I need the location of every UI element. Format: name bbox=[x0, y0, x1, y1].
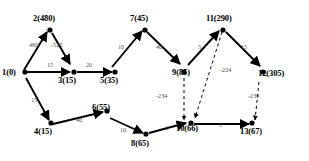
node-label-2: 2(480) bbox=[33, 14, 55, 23]
edge-12-13-dashed bbox=[255, 82, 259, 120]
node-label-1: 1(0) bbox=[2, 68, 16, 77]
node-label-6: 6(55) bbox=[92, 103, 110, 112]
node-label-5: 5(35) bbox=[100, 76, 118, 85]
edge-weight-4-6: 40 bbox=[76, 117, 82, 123]
edge-2-3 bbox=[52, 33, 70, 64]
edge-7-9 bbox=[147, 32, 180, 64]
edge-weight-9-10: -234 bbox=[156, 93, 167, 99]
node-label-3: 3(15) bbox=[58, 76, 76, 85]
graph-edges-layer bbox=[0, 0, 309, 161]
edge-weight-6-8: 10 bbox=[120, 127, 126, 133]
node-label-7: 7(45) bbox=[130, 14, 148, 23]
edge-5-7 bbox=[112, 31, 142, 67]
node-label-8: 8(65) bbox=[131, 139, 149, 148]
node-label-10: 10(66) bbox=[176, 124, 198, 133]
node-label-9: 9(85) bbox=[172, 68, 190, 77]
edge-weight-7-9: 40 bbox=[156, 44, 162, 50]
edge-1-4 bbox=[26, 78, 49, 120]
edge-weight-1-2: 480 bbox=[29, 42, 38, 48]
node-dot-1 bbox=[22, 69, 27, 74]
edge-weight-11-12: 15 bbox=[241, 44, 247, 50]
edge-weight-2-3: -525 bbox=[51, 42, 62, 48]
edge-weight-12-13: -239 bbox=[248, 93, 259, 99]
node-dot-11 bbox=[220, 27, 225, 32]
edge-weight-5-7: 10 bbox=[118, 44, 124, 50]
edge-weight-8-10: 1 bbox=[165, 125, 168, 131]
node-dot-3 bbox=[71, 69, 76, 74]
edge-weight-3-5: 20 bbox=[86, 62, 92, 68]
node-dot-13 bbox=[249, 120, 254, 125]
node-dot-7 bbox=[142, 27, 147, 32]
graph-diagram-canvas: 1(0) 2(480) 3(15) 4(15) 5(35) 6(55) 7(45… bbox=[0, 0, 309, 161]
node-label-11: 11(290) bbox=[206, 14, 232, 23]
edge-1-2 bbox=[24, 32, 47, 70]
edge-weight-9-11: 5 bbox=[198, 44, 201, 50]
node-label-4: 4(15) bbox=[34, 127, 52, 136]
node-dot-2 bbox=[47, 27, 52, 32]
node-dot-8 bbox=[143, 131, 148, 136]
edge-6-8 bbox=[110, 118, 143, 133]
node-dot-5 bbox=[112, 69, 117, 74]
node-label-13: 13(67) bbox=[240, 127, 262, 136]
node-label-12: 12(305) bbox=[258, 69, 284, 78]
edge-weight-1-4: 15 bbox=[31, 97, 37, 103]
edge-9-11 bbox=[188, 31, 219, 65]
edge-weight-10-13: 1 bbox=[219, 122, 222, 128]
edge-weight-1-3: 15 bbox=[47, 62, 53, 68]
edge-weight-11-10: -224 bbox=[220, 67, 231, 73]
node-dot-4 bbox=[48, 120, 53, 125]
